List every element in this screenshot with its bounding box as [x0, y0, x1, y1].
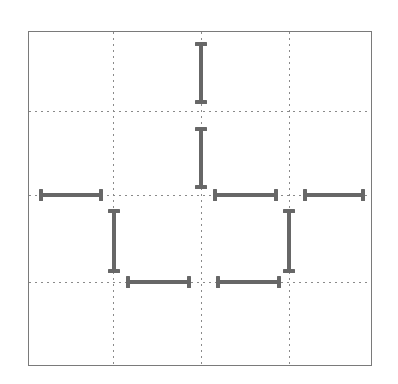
segment-cap-bottom — [108, 269, 120, 273]
segment-h-right — [303, 193, 365, 197]
segment-cap-left — [216, 276, 220, 288]
segment-cap-left — [303, 189, 307, 201]
segment-cap-top — [195, 127, 207, 131]
segment-v-lower-left — [112, 209, 116, 273]
segment-cap-right — [361, 189, 365, 201]
segment-cap-top — [283, 209, 295, 213]
plot-frame — [28, 31, 372, 366]
segment-h-center — [213, 193, 278, 197]
screenshot-stage — [0, 0, 398, 384]
segment-h-bottom-left — [126, 280, 191, 284]
segment-cap-right — [274, 189, 278, 201]
segment-v-lower-right — [287, 209, 291, 273]
segment-cap-right — [99, 189, 103, 201]
gridline-vertical-3 — [289, 32, 290, 365]
segment-cap-bottom — [195, 100, 207, 104]
segment-cap-bottom — [195, 185, 207, 189]
gridline-horizontal-3 — [29, 282, 371, 283]
segment-cap-left — [126, 276, 130, 288]
segment-v-upper-mid — [199, 127, 203, 189]
segment-h-left — [39, 193, 103, 197]
segment-cap-right — [277, 276, 281, 288]
plot-area — [29, 32, 371, 365]
segment-cap-left — [39, 189, 43, 201]
segment-cap-right — [187, 276, 191, 288]
segment-cap-top — [108, 209, 120, 213]
segment-v-top — [199, 42, 203, 104]
segment-cap-bottom — [283, 269, 295, 273]
segment-cap-top — [195, 42, 207, 46]
gridline-vertical-1 — [113, 32, 114, 365]
segment-cap-left — [213, 189, 217, 201]
segment-h-bottom-right — [216, 280, 281, 284]
gridline-horizontal-1 — [29, 111, 371, 112]
